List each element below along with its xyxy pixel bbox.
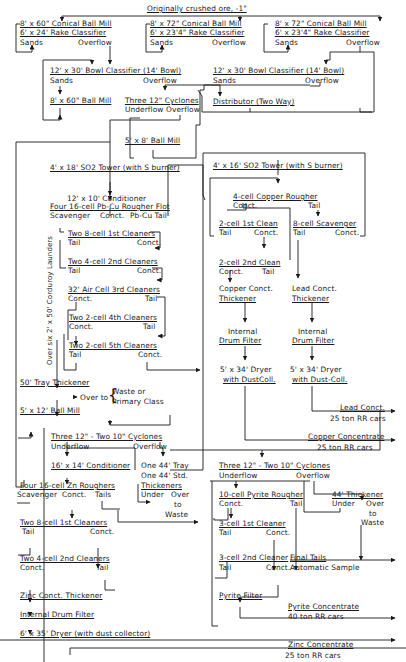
sands-label: Sands xyxy=(150,38,173,47)
zn-internal-drum-filter: Internal Drum Filter xyxy=(20,610,94,619)
bowl-classifier-1: 12' x 30' Bowl Classifier (14' Bowl) xyxy=(50,66,181,75)
zinc-concentrate-product: Zinc Concentrate xyxy=(288,640,353,649)
zn-2nd-cleaners: Two 4-cell 2nd Cleaners xyxy=(20,554,110,563)
overflow-label: Overflow xyxy=(143,76,177,85)
copper-shipping: 25 ton RR cars xyxy=(317,443,373,452)
automatic-sample: Automatic Sample xyxy=(290,563,360,572)
distributor-two-way: Distributor (Two Way) xyxy=(213,97,295,106)
py-1st-cleaner: 3-cell 1st Cleaner xyxy=(219,519,286,528)
tail-label: Tail xyxy=(219,528,231,537)
copper-conct-thickener-line1: Copper Conct. xyxy=(219,284,273,293)
conct-label: Conct. xyxy=(90,527,114,536)
overflow-label: Overflow xyxy=(296,471,330,480)
tail-label: Tail xyxy=(308,201,320,210)
pyrite-filter: Pyrite Filter xyxy=(219,591,262,600)
copper-rougher: 4-cell Copper Rougher xyxy=(233,192,318,201)
under-label: Under xyxy=(141,490,164,499)
overflow-label: Overflow xyxy=(166,105,200,114)
pb-3rd-cleaners-air-cell: 32' Air Cell 3rd Cleaners xyxy=(68,285,160,294)
tray-44-line3: Thickeners xyxy=(141,481,182,490)
pb-cu-rougher-flot: Four 16-cell Pb-Cu Rougher Flot xyxy=(50,202,170,211)
conical-ball-mill-b: 8' x 72" Conical Ball Mill xyxy=(150,19,242,28)
conct-label: Conct. xyxy=(266,563,290,572)
rake-classifier-c: 6' x 23'4" Rake Classifier xyxy=(275,28,369,37)
tray-thickener-50: 50' Tray Thickener xyxy=(20,378,89,387)
conct-label: Conct. xyxy=(137,266,161,275)
lead-conct-thickener-line1: Lead Conct. xyxy=(292,284,337,293)
conct-label: Conct. xyxy=(266,528,290,537)
conct-label: Conct. xyxy=(335,228,359,237)
conct-label: Conct. xyxy=(68,294,92,303)
pb-drum-filter-line1: Internal xyxy=(298,327,327,336)
rake-classifier-a: 6' x 24' Rake Classifier xyxy=(20,28,106,37)
so2-tower-4x18: 4' x 18' SO2 Tower (with S burner) xyxy=(50,163,180,172)
cu-2nd-clean: 2-cell 2nd Clean xyxy=(219,258,280,267)
so2-tower-4x16: 4' x 16' SO2 Tower (with S burner) xyxy=(213,161,343,170)
zinc-shipping: 25 ton RR cars xyxy=(285,651,341,660)
pb-5th-cleaners: Two 2-cell 5th Cleaners xyxy=(69,341,157,350)
waste-label: Waste xyxy=(165,510,188,519)
bowl-classifier-2: 12' x 30' Bowl Classifier (14' Bowl) xyxy=(213,66,344,75)
zn-dryer-6x35: 6' x 35' Dryer (with dust collector) xyxy=(20,629,150,638)
overflow-label: Overflow xyxy=(212,38,246,47)
pyrite-rougher: 10-cell Pyrite Rougher xyxy=(219,490,303,499)
tail-label: Tail xyxy=(262,267,274,276)
conct-label: Conct. xyxy=(100,211,124,220)
tail-label: Tail xyxy=(68,238,80,247)
tray-44-line1: One 44' Tray xyxy=(141,461,189,470)
tail-label: Tail xyxy=(68,266,80,275)
conct-label: Conct. xyxy=(219,499,243,508)
conical-ball-mill-a: 8' x 60" Conical Ball Mill xyxy=(20,19,112,28)
cu-dryer-line1: 5' x 34' Dryer xyxy=(220,365,272,374)
conct-label: Conct. xyxy=(233,201,257,210)
underflow-label: Underflow xyxy=(51,442,90,451)
waste-or-label: Waste or xyxy=(112,387,145,396)
to-label: to xyxy=(174,500,182,509)
cu-drum-filter-line2: Drum Filter xyxy=(219,336,261,345)
py-cyclones: Three 12" - Two 10" Cyclones xyxy=(219,461,330,470)
tail-label: Tail xyxy=(143,322,155,331)
pyrite-concentrate-product: Pyrite Concentrate xyxy=(288,602,359,611)
conct-label: Conct. xyxy=(137,238,161,247)
to-label: to xyxy=(369,509,377,518)
rake-classifier-b: 6' x 23'4" Rake Classifier xyxy=(150,28,244,37)
feed-label: Originally crushed ore, -1" xyxy=(147,4,247,13)
ball-mill-8x60: 8' x 60" Ball Mill xyxy=(50,96,111,105)
zn-1st-cleaners: Two 8-cell 1st Cleaners xyxy=(20,518,107,527)
tail-label: Tail xyxy=(290,499,302,508)
overflow-label: Overflow xyxy=(78,38,112,47)
final-tails: Final Tails xyxy=(290,553,326,562)
underflow-label: Underflow xyxy=(219,471,258,480)
over-to-label: Over to xyxy=(80,393,108,402)
pb-cu-tail-label: Pb-Cu Tail xyxy=(130,211,167,220)
ball-mill-5x12: 5' x 12' Ball Mill xyxy=(20,406,80,415)
sands-label: Sands xyxy=(50,76,73,85)
overflow-label: Overflow xyxy=(133,442,167,451)
conct-label: Conct. xyxy=(254,228,278,237)
under-label: Under xyxy=(332,499,355,508)
lead-concentrate-product: Lead Conct. xyxy=(340,403,385,412)
tail-label: Tail xyxy=(96,563,108,572)
waste-label: Waste xyxy=(361,518,384,527)
tail-label: Tail xyxy=(69,350,81,359)
conct-label: Conct. xyxy=(69,322,93,331)
cu-drum-filter-line1: Internal xyxy=(228,327,257,336)
sands-label: Sands xyxy=(213,76,236,85)
zn-cyclones: Three 12" - Two 10" Cyclones xyxy=(51,432,162,441)
lead-shipping: 25 ton RR cars xyxy=(330,414,386,423)
copper-concentrate-product: Copper Concentrate xyxy=(308,432,384,441)
pb-1st-cleaners: Two 8-cell 1st Cleaners xyxy=(68,229,155,238)
tray-44-line2: One 44' Std. xyxy=(141,471,188,480)
tail-label: Tail xyxy=(219,563,231,572)
zn-roughers: Four 16-cell Zn Roughers xyxy=(20,481,115,490)
primary-class-label: Primary Class xyxy=(112,397,164,406)
overflow-label: Overflow xyxy=(346,38,380,47)
py-2nd-cleaner: 3-cell 2nd Cleaner xyxy=(219,553,288,562)
tail-label: Tail xyxy=(219,228,231,237)
scavenger-label: Scavenger xyxy=(17,490,57,499)
pb-dryer-line2: with Dust-Coll. xyxy=(292,375,347,384)
over-label: Over xyxy=(171,490,189,499)
tail-label: Tail xyxy=(145,294,157,303)
ball-mill-5x8: 5' x 8' Ball Mill xyxy=(125,136,180,145)
pb-2nd-cleaners: Two 4-cell 2nd Cleaners xyxy=(68,257,158,266)
